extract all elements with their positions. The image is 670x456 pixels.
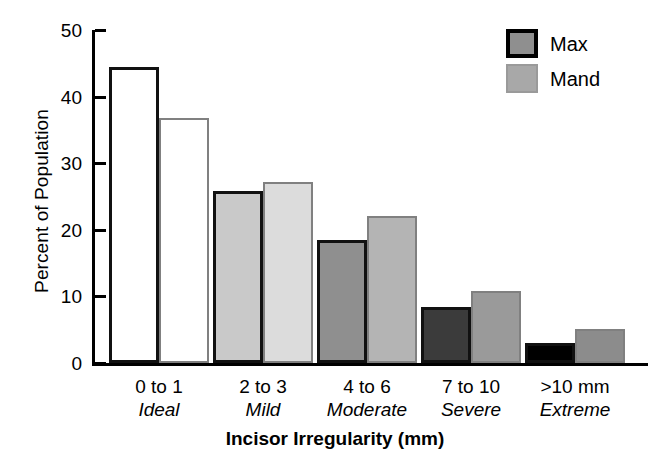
bar-chart: Percent of Population 50403020100 0 to 1… — [0, 0, 670, 456]
y-axis-tick-label: 20 — [28, 221, 82, 240]
bar-max-3 — [317, 240, 367, 363]
bar-mand-5 — [575, 329, 625, 363]
y-axis-tick-label: 0 — [28, 354, 82, 373]
bar-max-2 — [213, 191, 263, 363]
bar-mand-3 — [367, 216, 417, 363]
x-axis-category-label: >10 mmExtreme — [505, 375, 645, 421]
legend-item-mand: Mand — [506, 61, 600, 96]
y-axis-tick — [95, 229, 106, 232]
y-axis-tick — [95, 96, 106, 99]
legend-label-mand: Mand — [550, 69, 600, 89]
bar-max-4 — [421, 307, 471, 363]
bar-mand-1 — [159, 118, 209, 363]
y-axis-line — [92, 30, 95, 366]
y-axis-tick-label: 10 — [28, 287, 82, 306]
bar-max-1 — [109, 67, 159, 363]
legend-label-max: Max — [550, 34, 588, 54]
x-axis-title: Incisor Irregularity (mm) — [0, 428, 670, 450]
y-axis-tick-label: 30 — [28, 154, 82, 173]
y-axis-tick — [95, 162, 106, 165]
bar-max-5 — [525, 343, 575, 363]
bar-mand-4 — [471, 291, 521, 363]
y-axis-tick — [95, 29, 106, 32]
y-axis-tick-label: 50 — [28, 21, 82, 40]
chart-legend: MaxMand — [506, 26, 600, 96]
category-severity: Extreme — [505, 398, 645, 421]
category-range: >10 mm — [505, 375, 645, 398]
y-axis-tick — [95, 295, 106, 298]
y-axis-tick-label: 40 — [28, 88, 82, 107]
bar-mand-2 — [263, 182, 313, 363]
legend-swatch-max — [506, 29, 538, 58]
x-axis-line — [92, 363, 648, 366]
legend-swatch-mand — [506, 64, 538, 93]
legend-item-max: Max — [506, 26, 600, 61]
y-axis-tick — [95, 362, 106, 365]
